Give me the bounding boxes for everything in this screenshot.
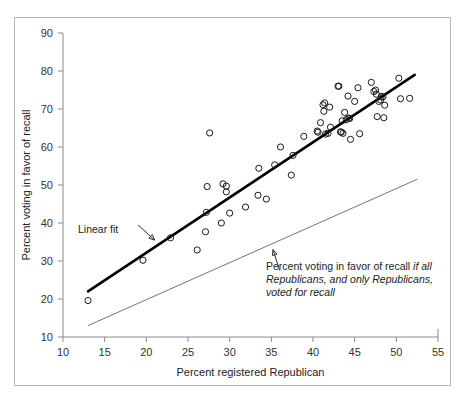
reference-line [88,179,417,325]
data-point-marker [372,87,378,93]
x-tick-label: 45 [349,346,361,358]
data-point-marker [382,102,388,108]
data-point-marker [227,210,233,216]
x-tick-label: 35 [265,346,277,358]
reference-label-italic-1: if all [413,260,432,272]
x-tick-label: 30 [224,346,236,358]
annotations: Linear fit Percent voting in favor of re… [78,223,433,298]
y-tick-label: 60 [41,141,53,153]
data-point-marker [140,257,146,263]
data-point-marker [194,247,200,253]
x-tick-label: 55 [432,346,444,358]
data-point-marker [204,183,210,189]
reference-label-line-1: Percent voting in favor of recall if all [266,260,432,272]
linear-fit-line [88,75,415,292]
scatter-plot: 10152025303540455055 102030405060708090 … [0,0,467,399]
data-point-marker [374,114,380,120]
chart-page: 10152025303540455055 102030405060708090 … [0,0,467,399]
y-axis-tick-labels: 102030405060708090 [41,27,53,343]
data-point-marker [301,133,307,139]
data-point-marker [255,192,261,198]
data-point-marker [352,98,358,104]
x-axis-ticks [63,337,438,342]
data-point-marker [347,136,353,142]
y-tick-label: 70 [41,103,53,115]
x-axis-title: Percent registered Republican [177,366,325,378]
data-point-marker [381,115,387,121]
trend-lines [88,75,417,326]
data-point-marker [345,93,351,99]
y-tick-label: 10 [41,331,53,343]
data-point-marker [207,130,213,136]
y-tick-label: 40 [41,217,53,229]
x-tick-label: 10 [57,346,69,358]
reference-label-plain: Percent voting in favor of recall [266,260,413,272]
data-point-marker [368,79,374,85]
x-tick-label: 40 [307,346,319,358]
data-point-marker [317,120,323,126]
y-tick-label: 80 [41,65,53,77]
x-tick-label: 20 [140,346,152,358]
y-tick-label: 50 [41,179,53,191]
data-point-marker [263,196,269,202]
data-point-marker [327,104,333,110]
data-point-marker [357,131,363,137]
data-point-marker [396,75,402,81]
data-point-marker [85,297,91,303]
data-point-marker [202,229,208,235]
linear-fit-arrow-icon [138,225,155,240]
data-point-marker [218,220,224,226]
data-point-marker [288,172,294,178]
data-point-marker [342,109,348,115]
x-tick-label: 15 [99,346,111,358]
y-tick-label: 20 [41,293,53,305]
data-point-marker [242,204,248,210]
data-point-marker [256,165,262,171]
data-point-marker [321,108,327,114]
x-axis-tick-labels: 10152025303540455055 [57,346,444,358]
y-tick-label: 30 [41,255,53,267]
linear-fit-label: Linear fit [78,223,118,235]
data-point-marker [320,102,326,108]
y-axis-title: Percent voting in favor of recall [20,109,32,260]
data-point-marker [277,144,283,150]
x-tick-label: 50 [390,346,402,358]
data-point-marker [407,95,413,101]
reference-label-line-3: voted for recall [266,286,336,298]
x-tick-label: 25 [182,346,194,358]
y-tick-label: 90 [41,27,53,39]
data-point-marker [397,96,403,102]
y-axis-ticks [58,33,63,337]
axes: 10152025303540455055 102030405060708090 [41,27,444,358]
reference-label-line-2: Republicans, and only Republicans, [266,273,433,285]
data-point-marker [355,85,361,91]
